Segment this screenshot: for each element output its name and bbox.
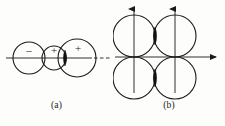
- circle-3-sign: +: [75, 42, 81, 54]
- panel-b: (b): [113, 0, 225, 126]
- circle-1-sign: –: [25, 44, 32, 56]
- filled-lens-overlap: [63, 50, 66, 66]
- panel-b-caption: (b): [113, 100, 225, 110]
- panel-a: – + + (a): [0, 0, 113, 126]
- figure-container: – + + (a): [0, 0, 225, 126]
- circle-2-sign: +: [51, 44, 57, 56]
- panel-a-caption: (a): [0, 100, 113, 110]
